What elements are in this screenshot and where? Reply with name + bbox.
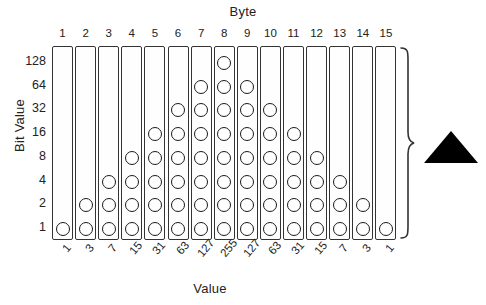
byte-column[interactable] xyxy=(52,46,73,240)
bit-circle[interactable] xyxy=(79,198,93,212)
bit-circle[interactable] xyxy=(263,175,277,189)
byte-index-label: 4 xyxy=(121,27,142,39)
bit-circle[interactable] xyxy=(102,175,116,189)
bit-circle[interactable] xyxy=(356,222,370,236)
y-axis-tick-4: 4 xyxy=(0,174,46,187)
y-axis-tick-128: 128 xyxy=(0,55,46,68)
bit-circle[interactable] xyxy=(310,222,324,236)
bit-circle[interactable] xyxy=(171,103,185,117)
byte-index-label: 14 xyxy=(352,27,373,39)
y-axis-tick-8: 8 xyxy=(0,150,46,163)
bit-circle[interactable] xyxy=(217,151,231,165)
bit-circle[interactable] xyxy=(171,175,185,189)
bit-circle[interactable] xyxy=(148,222,162,236)
bit-circle[interactable] xyxy=(171,151,185,165)
bit-circle[interactable] xyxy=(240,175,254,189)
byte-column[interactable] xyxy=(191,46,212,240)
bit-circle[interactable] xyxy=(240,103,254,117)
bit-circle[interactable] xyxy=(379,222,393,236)
byte-index-label: 3 xyxy=(98,27,119,39)
bit-circle[interactable] xyxy=(102,198,116,212)
bit-circle[interactable] xyxy=(263,127,277,141)
bit-circle[interactable] xyxy=(333,175,347,189)
bit-circle[interactable] xyxy=(125,151,139,165)
bit-circle[interactable] xyxy=(287,151,301,165)
bit-circle[interactable] xyxy=(194,127,208,141)
bit-circle[interactable] xyxy=(217,175,231,189)
bit-circle[interactable] xyxy=(148,198,162,212)
byte-column[interactable] xyxy=(121,46,142,240)
bit-circle[interactable] xyxy=(217,103,231,117)
bit-circle[interactable] xyxy=(240,222,254,236)
byte-column[interactable] xyxy=(306,46,327,240)
byte-index-label: 12 xyxy=(306,27,327,39)
y-axis-tick-2: 2 xyxy=(0,197,46,210)
byte-index-label: 1 xyxy=(52,27,73,39)
bit-circle[interactable] xyxy=(240,127,254,141)
byte-index-label: 15 xyxy=(375,27,396,39)
bit-circle[interactable] xyxy=(310,198,324,212)
bit-circle[interactable] xyxy=(240,198,254,212)
bit-circle[interactable] xyxy=(125,222,139,236)
solid-triangle-up-icon xyxy=(423,129,479,165)
byte-column[interactable] xyxy=(237,46,258,240)
byte-column[interactable] xyxy=(75,46,96,240)
bit-circle[interactable] xyxy=(171,222,185,236)
byte-column[interactable] xyxy=(214,46,235,240)
bit-circle[interactable] xyxy=(194,198,208,212)
bit-circle[interactable] xyxy=(217,56,231,70)
bit-circle[interactable] xyxy=(356,198,370,212)
bit-circle[interactable] xyxy=(148,127,162,141)
y-axis-tick-64: 64 xyxy=(0,79,46,92)
bit-circle[interactable] xyxy=(287,198,301,212)
bit-circle[interactable] xyxy=(194,103,208,117)
bit-circle[interactable] xyxy=(263,222,277,236)
bit-circle[interactable] xyxy=(194,175,208,189)
byte-index-label: 10 xyxy=(260,27,281,39)
byte-index-label: 13 xyxy=(329,27,350,39)
bit-circle[interactable] xyxy=(240,80,254,94)
byte-column[interactable] xyxy=(375,46,396,240)
byte-column[interactable] xyxy=(283,46,304,240)
byte-column[interactable] xyxy=(329,46,350,240)
y-axis-tick-32: 32 xyxy=(0,102,46,115)
bit-circle[interactable] xyxy=(148,175,162,189)
bit-circle[interactable] xyxy=(287,222,301,236)
bit-circle[interactable] xyxy=(125,198,139,212)
bit-circle[interactable] xyxy=(263,151,277,165)
bit-circle[interactable] xyxy=(102,222,116,236)
byte-column[interactable] xyxy=(98,46,119,240)
bit-circle[interactable] xyxy=(194,151,208,165)
bit-circle[interactable] xyxy=(263,103,277,117)
bit-circle[interactable] xyxy=(194,222,208,236)
byte-index-label: 9 xyxy=(237,27,258,39)
byte-index-label: 6 xyxy=(168,27,189,39)
bit-circle[interactable] xyxy=(240,151,254,165)
bit-circle[interactable] xyxy=(148,151,162,165)
bit-circle[interactable] xyxy=(125,175,139,189)
bit-circle[interactable] xyxy=(217,127,231,141)
bit-circle[interactable] xyxy=(333,198,347,212)
bit-circle[interactable] xyxy=(310,175,324,189)
bit-circle[interactable] xyxy=(171,198,185,212)
bit-circle[interactable] xyxy=(333,222,347,236)
byte-index-label: 7 xyxy=(191,27,212,39)
bit-circle[interactable] xyxy=(171,127,185,141)
right-curly-brace-icon xyxy=(398,46,416,240)
bit-circle[interactable] xyxy=(287,127,301,141)
bit-circle[interactable] xyxy=(217,198,231,212)
byte-column[interactable] xyxy=(260,46,281,240)
bit-circle[interactable] xyxy=(263,198,277,212)
byte-index-label: 8 xyxy=(214,27,235,39)
y-axis-tick-1: 1 xyxy=(0,221,46,234)
bit-circle[interactable] xyxy=(310,151,324,165)
byte-column[interactable] xyxy=(168,46,189,240)
bit-circle[interactable] xyxy=(79,222,93,236)
bit-circle[interactable] xyxy=(287,175,301,189)
byte-column[interactable] xyxy=(144,46,165,240)
bit-circle[interactable] xyxy=(217,80,231,94)
bit-circle[interactable] xyxy=(56,222,70,236)
bit-circle[interactable] xyxy=(194,80,208,94)
byte-column[interactable] xyxy=(352,46,373,240)
bit-circle[interactable] xyxy=(217,222,231,236)
